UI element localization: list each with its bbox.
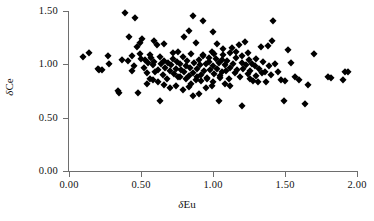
data-point-marker bbox=[287, 60, 294, 67]
x-tick-label: 0.50 bbox=[121, 179, 161, 190]
data-point-marker bbox=[327, 75, 334, 82]
data-point-marker bbox=[339, 77, 346, 84]
x-tick-mark bbox=[357, 172, 358, 177]
data-point-marker bbox=[104, 52, 111, 59]
x-tick-label: 1.50 bbox=[265, 179, 305, 190]
data-point-marker bbox=[129, 52, 136, 59]
data-point-marker bbox=[296, 77, 303, 84]
y-tick-label: 0.00 bbox=[16, 166, 58, 177]
data-point-marker bbox=[281, 78, 288, 85]
data-point-marker bbox=[188, 50, 195, 57]
data-point-marker bbox=[345, 68, 352, 75]
data-point-marker bbox=[270, 17, 277, 24]
x-tick-label: 1.00 bbox=[193, 179, 233, 190]
x-axis-title: δEu bbox=[0, 198, 374, 210]
data-point-marker bbox=[254, 79, 261, 86]
data-point-marker bbox=[156, 97, 163, 104]
data-point-marker bbox=[263, 79, 270, 86]
data-point-marker bbox=[132, 15, 139, 22]
data-point-marker bbox=[126, 33, 133, 40]
data-point-marker bbox=[209, 29, 216, 36]
data-point-marker bbox=[160, 40, 167, 47]
data-point-marker bbox=[134, 89, 141, 96]
x-tick-label: 2.00 bbox=[337, 179, 374, 190]
x-tick-label: 0.00 bbox=[49, 179, 89, 190]
data-point-marker bbox=[274, 68, 281, 75]
data-point-marker bbox=[284, 47, 291, 54]
data-point-marker bbox=[301, 100, 308, 107]
data-point-marker bbox=[238, 102, 245, 109]
data-point-marker bbox=[139, 35, 146, 42]
y-tick-label: 1.00 bbox=[16, 59, 58, 70]
data-point-marker bbox=[237, 73, 244, 80]
data-point-marker bbox=[304, 81, 311, 88]
data-point-marker bbox=[215, 97, 222, 104]
data-point-marker bbox=[85, 49, 92, 56]
data-point-marker bbox=[192, 39, 199, 46]
y-tick-label: 0.50 bbox=[16, 113, 58, 124]
data-point-marker bbox=[257, 44, 264, 51]
data-point-marker bbox=[310, 50, 317, 57]
data-point-marker bbox=[199, 17, 206, 24]
y-axis-title: δCe bbox=[3, 57, 15, 117]
data-point-marker bbox=[185, 28, 192, 35]
plot-area bbox=[69, 11, 357, 171]
data-point-marker bbox=[227, 82, 234, 89]
x-tick-mark bbox=[213, 172, 214, 177]
data-point-marker bbox=[267, 71, 274, 78]
x-tick-mark bbox=[69, 172, 70, 177]
data-point-marker bbox=[106, 61, 113, 68]
x-tick-mark bbox=[141, 172, 142, 177]
data-point-marker bbox=[195, 91, 202, 98]
scatter-plot-figure: 0.000.501.001.50 0.000.501.001.502.00 δE… bbox=[0, 0, 374, 221]
data-point-marker bbox=[280, 97, 287, 104]
x-tick-mark bbox=[285, 172, 286, 177]
data-point-marker bbox=[121, 9, 128, 16]
y-tick-label: 1.50 bbox=[16, 6, 58, 17]
data-point-marker bbox=[181, 33, 188, 40]
data-point-marker bbox=[189, 13, 196, 20]
